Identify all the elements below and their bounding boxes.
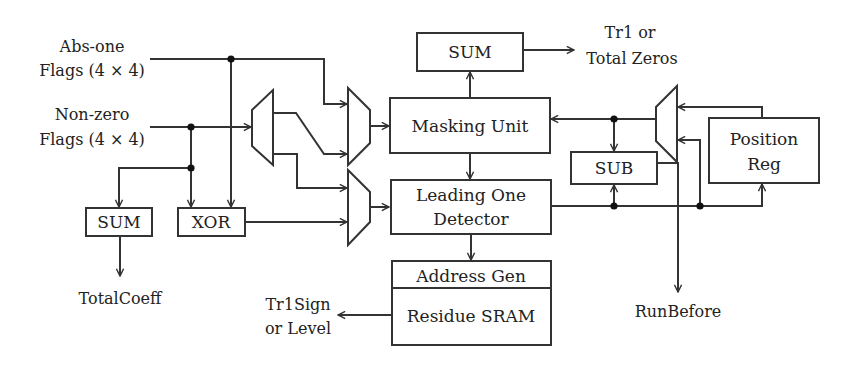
lod-input-mux <box>348 170 370 245</box>
block-diagram: Abs-one Flags (4 × 4) Non-zero Flags (4 … <box>0 0 861 370</box>
junction-dot <box>227 55 234 62</box>
svg-text:SUM: SUM <box>97 212 140 232</box>
svg-text:Position: Position <box>730 129 799 149</box>
junction-dot <box>610 202 617 209</box>
masking-input-mux <box>348 88 370 165</box>
address-gen-residue-sram-block: Address Gen Residue SRAM <box>392 261 551 345</box>
svg-text:XOR: XOR <box>192 212 232 232</box>
junction-dot <box>610 115 617 122</box>
svg-text:Tr1Sign: Tr1Sign <box>265 295 330 314</box>
tr1sign-level-label: Tr1Sign or Level <box>265 295 331 338</box>
svg-text:or Level: or Level <box>265 319 331 338</box>
svg-text:Flags (4 × 4): Flags (4 × 4) <box>39 61 145 80</box>
right-mux <box>656 86 677 162</box>
total-coeff-label: TotalCoeff <box>79 289 163 308</box>
svg-text:Flags (4 × 4): Flags (4 × 4) <box>39 130 145 149</box>
position-reg-block: Position Reg <box>709 118 819 183</box>
svg-text:TotalCoeff: TotalCoeff <box>79 289 163 308</box>
svg-text:Leading One: Leading One <box>416 185 526 205</box>
svg-text:Tr1 or: Tr1 or <box>605 23 656 42</box>
svg-text:Abs-one: Abs-one <box>59 37 125 56</box>
svg-text:Total Zeros: Total Zeros <box>586 49 677 68</box>
sub-block: SUB <box>571 152 657 184</box>
leading-one-detector-block: Leading One Detector <box>391 180 551 234</box>
svg-text:RunBefore: RunBefore <box>635 302 722 321</box>
left-mux <box>252 90 273 165</box>
svg-text:SUM: SUM <box>448 42 491 62</box>
sum-block-bottom: SUM <box>86 208 152 236</box>
svg-text:Non-zero: Non-zero <box>55 105 130 124</box>
svg-text:SUB: SUB <box>595 158 633 178</box>
tr1-total-zeros-label: Tr1 or Total Zeros <box>586 23 677 68</box>
wires-left <box>119 59 347 276</box>
non-zero-flags-label: Non-zero Flags (4 × 4) <box>39 105 145 149</box>
masking-unit-block: Masking Unit <box>390 98 550 153</box>
sum-block-top: SUM <box>417 33 523 71</box>
junction-dot <box>187 123 194 130</box>
address-gen-label: Address Gen <box>415 266 526 286</box>
xor-block: XOR <box>178 208 245 236</box>
junction-dot <box>187 164 194 171</box>
junction-dot <box>696 202 703 209</box>
run-before-label: RunBefore <box>635 302 722 321</box>
abs-one-flags-label: Abs-one Flags (4 × 4) <box>39 37 145 80</box>
svg-text:Detector: Detector <box>433 209 509 229</box>
svg-text:Reg: Reg <box>747 154 781 174</box>
residue-sram-label: Residue SRAM <box>407 306 535 326</box>
svg-text:Masking Unit: Masking Unit <box>412 116 529 136</box>
